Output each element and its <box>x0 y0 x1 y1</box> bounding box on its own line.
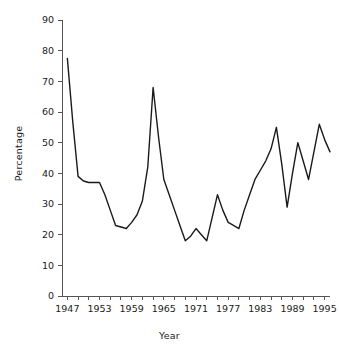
x-tick-label: 1995 <box>313 303 337 314</box>
y-tick-label: 10 <box>42 260 54 271</box>
line-chart-figure: 0102030405060708090 19471953195919651971… <box>0 0 339 357</box>
x-axis-tick-labels: 194719531959196519711977198319891995 <box>55 303 336 314</box>
y-axis-tick-labels: 0102030405060708090 <box>42 14 54 301</box>
x-tick-label: 1953 <box>87 303 111 314</box>
y-tick-label: 30 <box>42 198 54 209</box>
x-tick-label: 1959 <box>120 303 144 314</box>
y-tick-label: 80 <box>42 45 54 56</box>
y-axis-title: Percentage <box>13 114 24 194</box>
chart-plot-area: 0102030405060708090 19471953195919651971… <box>0 0 339 357</box>
y-tick-label: 50 <box>42 137 54 148</box>
y-tick-label: 0 <box>48 290 54 301</box>
x-tick-label: 1989 <box>280 303 304 314</box>
data-series-line <box>67 58 330 240</box>
x-tick-label: 1977 <box>216 303 240 314</box>
x-axis-tick-marks <box>67 296 324 300</box>
x-tick-label: 1965 <box>152 303 176 314</box>
y-axis-tick-marks <box>58 20 62 296</box>
y-tick-label: 20 <box>42 229 54 240</box>
x-tick-label: 1983 <box>248 303 272 314</box>
y-tick-label: 70 <box>42 76 54 87</box>
y-tick-label: 40 <box>42 168 54 179</box>
y-tick-label: 60 <box>42 106 54 117</box>
x-axis-title: Year <box>0 330 339 341</box>
x-tick-label: 1971 <box>184 303 208 314</box>
x-tick-label: 1947 <box>55 303 79 314</box>
y-tick-label: 90 <box>42 14 54 25</box>
